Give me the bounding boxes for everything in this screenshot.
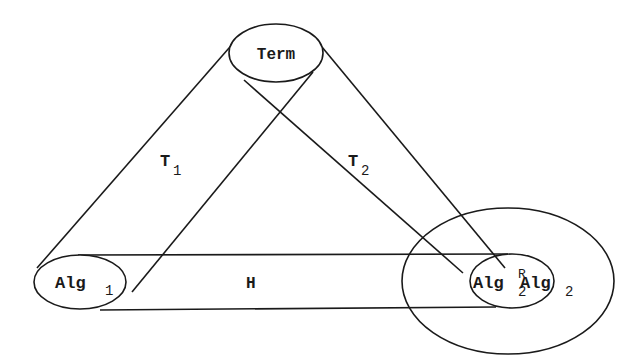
svg-text:2: 2 — [361, 163, 369, 179]
edge-t1-label: T 1 — [160, 152, 181, 179]
node-alg2-ellipse — [402, 208, 614, 354]
node-term-label: Term — [257, 46, 296, 64]
svg-text:Alg: Alg — [520, 274, 551, 293]
node-alg2r-label: Alg R 2 — [473, 267, 526, 300]
edge-t1-left-line — [37, 40, 236, 268]
edge-h-label: H — [246, 275, 256, 293]
svg-text:2: 2 — [565, 284, 573, 300]
svg-text:Alg: Alg — [55, 274, 86, 293]
diagram-canvas: Term Alg 1 Alg R 2 Alg 2 T 1 T 2 H — [0, 0, 621, 355]
svg-text:1: 1 — [173, 163, 181, 179]
svg-text:1: 1 — [105, 283, 113, 299]
edge-h-bottom-line — [100, 307, 496, 310]
edge-h-top-line — [78, 254, 508, 255]
diagram-svg: Term Alg 1 Alg R 2 Alg 2 T 1 T 2 H — [0, 0, 621, 355]
edge-t1-right-line — [132, 72, 313, 292]
svg-text:T: T — [348, 152, 358, 171]
svg-text:Alg: Alg — [473, 274, 504, 293]
svg-text:T: T — [160, 152, 170, 171]
